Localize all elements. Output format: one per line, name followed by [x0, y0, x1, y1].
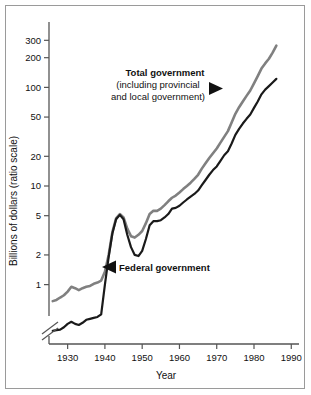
y-axis-tick-label: 300 [25, 35, 41, 46]
y-axis-tick-label: 2 [36, 249, 41, 260]
x-axis-tick-label: 1960 [169, 352, 190, 363]
x-axis-tick-labels: 1930194019501960197019801990 [57, 352, 302, 363]
x-axis-tick-label: 1970 [206, 352, 227, 363]
y-axis-tick-labels: 300200100502010521 [25, 35, 41, 290]
y-axis-tick-label: 5 [36, 210, 41, 221]
y-axis-tick-label: 20 [30, 151, 41, 162]
x-axis-title: Year [156, 370, 177, 381]
federal-government-annotation-line-1: Federal government [119, 262, 211, 273]
x-axis-tick-label: 1980 [243, 352, 264, 363]
federal-government-annotation: Federal government [102, 261, 211, 274]
total-government-annotation-line-3: and local government) [111, 91, 205, 102]
x-axis-tick-label: 1990 [281, 352, 302, 363]
total-government-annotation: Total government (including provincial a… [111, 67, 223, 102]
x-axis-tick-label: 1950 [132, 352, 153, 363]
x-axis-tick-label: 1930 [57, 352, 78, 363]
government-spending-line-chart: 300200100502010521 193019401950196019701… [6, 6, 304, 388]
total-government-annotation-line-2: (including provincial [116, 79, 199, 90]
axis-break-icon [42, 321, 58, 340]
y-axis-tick-label: 50 [30, 111, 41, 122]
y-axis-tick-label: 1 [36, 279, 41, 290]
x-axis-tick-label: 1940 [94, 352, 115, 363]
y-axis-tick-label: 10 [30, 180, 41, 191]
chart-figure: 300200100502010521 193019401950196019701… [0, 0, 311, 395]
chart-frame: 300200100502010521 193019401950196019701… [5, 5, 305, 389]
arrow-right-icon [209, 82, 223, 95]
y-axis-title: Billions of dollars (ratio scale) [8, 136, 19, 266]
y-axis-tick-label: 100 [25, 82, 41, 93]
total-government-annotation-line-1: Total government [126, 67, 206, 78]
y-axis-tick-label: 200 [25, 52, 41, 63]
